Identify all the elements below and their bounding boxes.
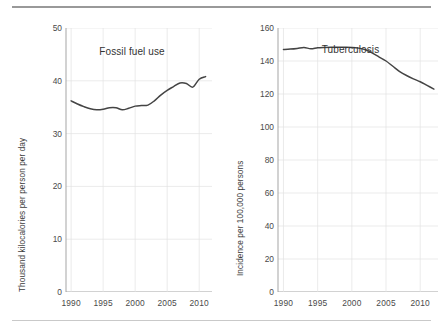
plot-area-left (62, 28, 212, 292)
chart-title-left: Fossil fuel use (99, 46, 164, 57)
data-line (71, 77, 205, 110)
y-tick-label: 20 (38, 181, 62, 191)
y-axis-label-right: Incidence per 100,000 persons (236, 161, 245, 276)
y-tick-label: 40 (38, 76, 62, 86)
line-chart-left (62, 28, 212, 292)
x-tick-label: 2005 (376, 298, 395, 308)
x-tick-label: 2005 (157, 298, 176, 308)
y-tick-label: 60 (250, 188, 274, 198)
x-tick-label: 2000 (342, 298, 361, 308)
y-tick-label: 20 (250, 254, 274, 264)
bottom-divider-rule (12, 320, 431, 321)
y-tick-label: 120 (250, 89, 274, 99)
x-tick-label: 1990 (61, 298, 80, 308)
line-chart-right (274, 28, 438, 292)
y-tick-label: 140 (250, 56, 274, 66)
y-tick-label: 160 (250, 23, 274, 33)
x-tick-label: 2010 (189, 298, 208, 308)
chart-panel-tuberculosis: Incidence per 100,000 persons Tuberculos… (222, 14, 440, 314)
chart-panel-fossil-fuel-use: Thousand kilocalories per person per day… (4, 14, 220, 314)
y-tick-label: 40 (250, 221, 274, 231)
plot-area-right (274, 28, 438, 292)
x-tick-label: 2010 (411, 298, 430, 308)
x-tick-label: 1990 (274, 298, 293, 308)
y-tick-label: 100 (250, 122, 274, 132)
top-divider-rule (12, 6, 431, 8)
x-tick-label: 1995 (93, 298, 112, 308)
y-tick-label: 30 (38, 129, 62, 139)
y-tick-label: 0 (250, 287, 274, 297)
y-tick-label: 80 (250, 155, 274, 165)
y-tick-label: 50 (38, 23, 62, 33)
y-tick-label: 10 (38, 234, 62, 244)
chart-title-right: Tuberculosis (322, 44, 380, 55)
y-axis-label-left: Thousand kilocalories per person per day (18, 138, 27, 292)
x-tick-label: 1995 (308, 298, 327, 308)
y-tick-label: 0 (38, 287, 62, 297)
x-tick-label: 2000 (125, 298, 144, 308)
